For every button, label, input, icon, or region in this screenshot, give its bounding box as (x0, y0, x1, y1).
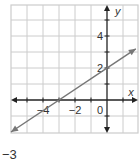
answer-caption: −3 (2, 147, 17, 162)
x-tick-label: −2 (69, 104, 82, 116)
plotted-line (11, 49, 136, 132)
x-axis-label: x (127, 86, 134, 98)
coordinate-plane: −4−2420xy (0, 0, 139, 145)
line-arrow-start-icon (11, 125, 19, 132)
y-tick-label: 4 (97, 30, 103, 42)
y-axis-label: y (114, 5, 122, 17)
x-axis-left-arrow-icon (11, 97, 17, 103)
line-segment (11, 49, 136, 132)
y-axis-up-arrow-icon (104, 5, 110, 11)
origin-label: 0 (97, 104, 103, 116)
y-axis-down-arrow-icon (104, 127, 110, 133)
